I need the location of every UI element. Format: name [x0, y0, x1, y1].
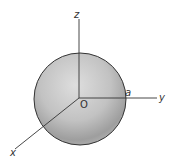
- z-axis-label: z: [74, 10, 79, 20]
- radius-label: a: [125, 88, 131, 98]
- y-axis-label: y: [159, 93, 165, 103]
- diagram-canvas: [0, 0, 175, 161]
- origin-label: O: [80, 100, 88, 110]
- x-axis-label: x: [10, 148, 16, 158]
- sphere-diagram: z y x a O: [0, 0, 175, 161]
